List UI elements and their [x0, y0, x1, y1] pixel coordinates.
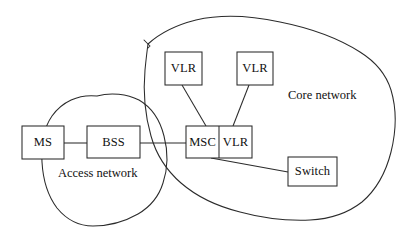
core-network-outline	[144, 16, 395, 220]
link-vlr-right-to-vlr	[233, 85, 249, 126]
region-outlines	[42, 16, 395, 226]
node-box-ms[interactable]	[22, 126, 64, 159]
node-box-vlr-right[interactable]	[237, 52, 273, 85]
diagram-canvas	[0, 0, 411, 237]
network-diagram: MS BSS MSC VLR VLR VLR Switch Access net…	[0, 0, 411, 237]
node-box-vlr-left[interactable]	[165, 52, 202, 85]
node-box-switch[interactable]	[288, 157, 337, 186]
core-network-outline-notch	[144, 40, 150, 48]
access-network-outline	[42, 94, 167, 226]
node-box-bss[interactable]	[87, 126, 140, 158]
node-boxes	[22, 52, 337, 186]
link-msc-to-switch	[211, 158, 288, 172]
link-vlr-left-to-msc	[182, 85, 206, 126]
